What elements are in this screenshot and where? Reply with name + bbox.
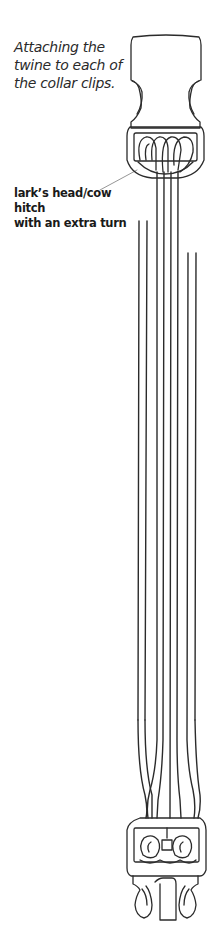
- callout-leader-line: [100, 170, 137, 190]
- collar-twine-illustration: [0, 0, 214, 928]
- twine-strands: [138, 172, 200, 818]
- bottom-collar-clip-icon: [127, 818, 206, 920]
- top-collar-clip-icon: [127, 35, 204, 178]
